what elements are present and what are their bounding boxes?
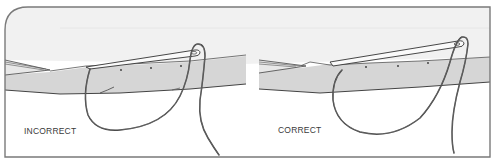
background-band [5, 7, 490, 64]
stitch-mark [427, 62, 429, 64]
stitch-mark [365, 66, 367, 68]
stitch-mark [180, 65, 182, 67]
label-correct: CORRECT [278, 125, 321, 135]
stitch-mark [120, 69, 122, 71]
stitch-mark [397, 65, 399, 67]
sewing-illustration [0, 0, 494, 162]
stitch-mark [150, 67, 152, 69]
label-incorrect: INCORRECT [24, 126, 76, 136]
